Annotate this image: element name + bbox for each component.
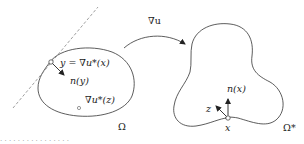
interior-point-grad-u-star-z (77, 106, 80, 109)
label-n-x: n(x) (227, 83, 246, 94)
label-grad-u: ∇u (148, 15, 161, 26)
caption-fragment: · · · · · · · · · · · · · · · · (0, 137, 69, 144)
diagram-canvas: y = ∇u*(x) n(y) ∇u*(z) Ω ∇u n(x) z x Ω* … (0, 0, 304, 144)
label-z: z (205, 103, 212, 114)
right-domain (174, 24, 283, 127)
label-n-y: n(y) (70, 75, 89, 86)
label-x: x (225, 122, 231, 133)
label-omega: Ω (118, 121, 126, 132)
direction-arrow-z (216, 106, 227, 117)
mapping-arrow (124, 36, 185, 48)
label-grad-u-star-z: ∇u*(z) (85, 94, 115, 105)
label-y-eq-grad-u-star-x: y = ∇u*(x) (59, 57, 110, 68)
label-omega-star: Ω* (283, 122, 296, 133)
